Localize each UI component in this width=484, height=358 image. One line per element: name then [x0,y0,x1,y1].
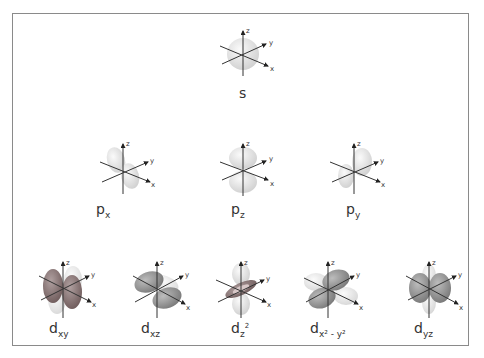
orbital-label-s: s [239,85,246,101]
svg-text:z: z [66,259,70,267]
svg-text:z: z [432,259,436,267]
svg-text:y: y [269,39,273,47]
orbital-px: zyx px [92,138,162,233]
svg-text:z: z [246,27,250,35]
svg-text:x: x [92,301,96,309]
orbital-dxy: zyx dxy [33,258,103,353]
svg-text:y: y [266,275,270,283]
svg-text:y: y [356,271,360,279]
orbital-dz2: zyx dz2 [208,258,278,353]
svg-text:y: y [458,271,462,279]
svg-text:y: y [380,157,384,165]
px-orbital-icon: zyx [92,138,162,198]
svg-text:y: y [269,155,273,163]
svg-text:z: z [160,259,164,267]
py-orbital-icon: zyx [322,138,392,198]
dyz-orbital-icon: zyx [400,258,470,320]
svg-text:y: y [91,271,95,279]
orbital-py: zyx py [322,138,392,233]
svg-text:x: x [359,304,363,312]
svg-text:z: z [246,140,250,148]
svg-text:x: x [270,65,274,73]
svg-text:x: x [186,304,190,312]
orbital-pz: zyx pz [210,138,280,233]
orbital-label-pz: pz [231,201,245,220]
orbital-label-dx2y2: dx² - y² [310,320,346,339]
orbital-label-dxz: dxz [141,320,160,339]
svg-text:x: x [270,180,274,188]
svg-text:x: x [151,181,155,189]
svg-text:y: y [185,271,189,279]
svg-text:z: z [357,140,361,148]
orbital-s: zyx s [210,24,280,119]
orbital-label-px: px [96,201,110,220]
dz2-orbital-icon: zyx [208,258,278,320]
svg-text:z: z [331,259,335,267]
svg-text:x: x [459,304,463,312]
dxz-orbital-icon: zyx [127,258,197,320]
orbital-label-dyz: dyz [414,320,433,339]
orbital-label-dxy: dxy [49,320,69,339]
orbital-dyz: zyx dyz [400,258,470,353]
orbital-dxz: zyx dxz [127,258,197,353]
svg-text:z: z [126,140,130,148]
svg-text:z: z [244,259,248,267]
svg-text:x: x [381,181,385,189]
orbital-dx2y2: zyx dx² - y² [298,258,388,353]
dx2y2-orbital-icon: zyx [298,258,368,320]
svg-text:x: x [267,301,271,309]
dxy-orbital-icon: zyx [33,258,103,320]
pz-orbital-icon: zyx [210,138,280,200]
orbital-label-py: py [346,201,360,220]
s-orbital-icon: zyx [210,24,280,84]
orbital-label-dz2: dz2 [231,320,249,339]
svg-text:y: y [150,157,154,165]
